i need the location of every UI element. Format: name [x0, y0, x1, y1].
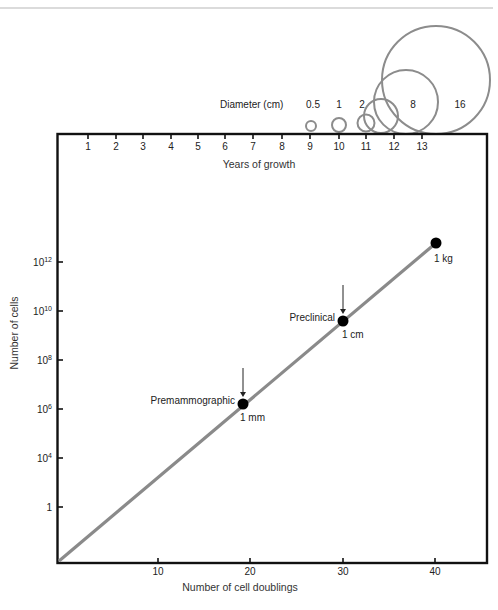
x-tick-20: 20 [244, 566, 256, 577]
diameter-label-1: 1 [336, 99, 342, 110]
label-1cm: 1 cm [342, 329, 364, 340]
diameter-label-16: 16 [454, 99, 466, 110]
year-tick-4: 4 [168, 141, 174, 152]
point-premammographic [238, 399, 249, 410]
year-tick-9: 9 [307, 141, 313, 152]
arrow-premammographic [240, 368, 246, 397]
year-tick-11: 11 [361, 141, 372, 152]
diameter-title: Diameter (cm) [220, 99, 283, 110]
y-tick-1e10: 1010 [33, 305, 52, 317]
y-tick-1e6: 106 [37, 403, 52, 415]
y-tick-1: 1 [46, 502, 52, 513]
diameter-label-8: 8 [410, 99, 416, 110]
point-preclinical [338, 316, 349, 327]
x-axis-title: Number of cell doublings [182, 581, 298, 593]
circle-05cm [306, 121, 316, 131]
year-tick-13: 13 [416, 141, 428, 152]
y-tick-1e8: 108 [37, 354, 52, 366]
y-axis [58, 262, 63, 507]
label-preclinical: Preclinical [289, 312, 335, 323]
point-1kg [431, 238, 442, 249]
x-tick-10: 10 [152, 566, 164, 577]
circle-1cm [332, 118, 346, 132]
year-tick-5: 5 [195, 141, 201, 152]
diameter-circles [306, 26, 490, 134]
plot-frame [58, 134, 488, 563]
label-premammographic: Premammographic [151, 395, 235, 406]
y-tick-1e4: 104 [37, 452, 52, 464]
year-tick-2: 2 [113, 141, 119, 152]
y-tick-1e12: 1012 [33, 256, 52, 268]
diameter-label-05: 0.5 [306, 99, 320, 110]
year-tick-3: 3 [140, 141, 146, 152]
arrow-preclinical [340, 285, 346, 314]
label-1mm: 1 mm [240, 412, 265, 423]
year-tick-12: 12 [388, 141, 400, 152]
year-tick-6: 6 [222, 141, 228, 152]
tumor-growth-chart: Diameter (cm) 0.5 1 2 8 16 1 2 3 4 5 6 7… [0, 0, 498, 610]
year-tick-1: 1 [85, 141, 91, 152]
years-axis-title: Years of growth [223, 158, 296, 170]
label-1kg: 1 kg [434, 253, 453, 264]
year-tick-10: 10 [333, 141, 345, 152]
x-tick-30: 30 [337, 566, 349, 577]
x-tick-40: 40 [429, 566, 441, 577]
diameter-label-2: 2 [359, 99, 365, 110]
year-tick-8: 8 [279, 141, 285, 152]
y-axis-title: Number of cells [8, 297, 20, 370]
year-tick-7: 7 [250, 141, 256, 152]
